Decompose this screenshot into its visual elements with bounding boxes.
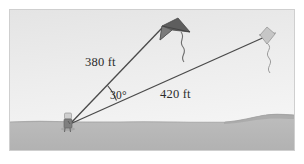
label-angle-30: 30° [110,89,127,101]
scene-canvas [10,10,294,150]
kite-trigonometry-figure: 380 ft 420 ft 30° [0,0,304,164]
label-side-380: 380 ft [85,55,116,70]
figure-frame: 380 ft 420 ft 30° [9,9,295,151]
label-side-420: 420 ft [160,87,191,102]
